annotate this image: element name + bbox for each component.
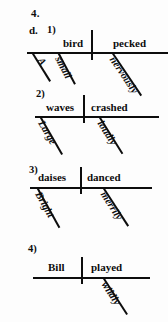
diagram-1-label: 1) [47, 24, 56, 35]
diagram-2-predicate: crashed [91, 102, 128, 113]
diagram-2-subject: waves [46, 102, 74, 113]
exercise-number: 4. [31, 7, 40, 19]
diagram-1-predicate: pecked [113, 38, 146, 49]
diagram-3-predicate: danced [87, 172, 121, 183]
diagram-4-predicate-modifier-1: wildly [99, 280, 122, 307]
diagram-3-label: 3) [29, 164, 38, 175]
diagram-3-baseline [30, 187, 152, 189]
exercise-sub-item: d. [29, 24, 38, 36]
diagram-1-baseline [27, 52, 168, 54]
diagram-4-baseline [33, 277, 150, 279]
diagram-1-subject-modifier-2: small [53, 55, 73, 81]
diagram-1-predicate-modifier-1: nervously [107, 55, 139, 96]
diagram-1-subject: bird [63, 38, 83, 49]
diagram-2-predicate-modifier-1: loudly [95, 119, 118, 147]
diagram-2-divider [83, 95, 85, 123]
diagram-4-subject: Bill [48, 262, 65, 273]
diagram-4-predicate: played [91, 262, 122, 273]
diagram-1-divider [91, 30, 93, 60]
diagram-3-subject: daises [38, 172, 66, 183]
diagram-2-subject-modifier-1: Large [36, 119, 58, 146]
worksheet-page: 4. d. 1) bird pecked A small nervously 2… [0, 0, 168, 322]
diagram-3-predicate-modifier-1: merrily [98, 190, 124, 222]
diagram-2-label: 2) [36, 88, 45, 99]
diagram-3-divider [80, 167, 82, 194]
diagram-4-label: 4) [28, 243, 37, 254]
diagram-4-divider [81, 257, 83, 284]
diagram-3-subject-modifier-1: Bright [33, 190, 56, 220]
